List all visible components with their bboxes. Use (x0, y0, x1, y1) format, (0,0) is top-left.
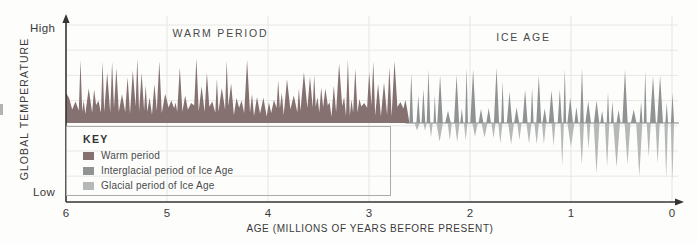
y-axis-high-label: High (30, 22, 55, 34)
x-tick-label: 1 (561, 207, 581, 219)
key-item: Glacial period of Ice Age (83, 178, 390, 193)
key-item-label: Interglacial period of Ice Age (101, 165, 233, 176)
warm-period-annotation: WARM PERIOD (146, 27, 296, 39)
x-tick-label: 4 (258, 207, 278, 219)
key-swatch-icon (83, 152, 94, 160)
key-swatch-icon (83, 182, 94, 190)
y-axis-arrow-icon (62, 14, 69, 23)
x-tick-label: 0 (662, 207, 682, 219)
x-tick-label: 2 (460, 207, 480, 219)
y-axis-title: GLOBAL TEMPERATURE (18, 34, 30, 184)
x-tick-label: 6 (56, 207, 76, 219)
temperature-history-chart: High Low GLOBAL TEMPERATURE WARM PERIOD … (0, 0, 698, 243)
key-box: KEY Warm periodInterglacial period of Ic… (66, 126, 391, 196)
key-swatch-icon (83, 167, 94, 175)
key-item-label: Warm period (101, 150, 160, 161)
key-item: Interglacial period of Ice Age (83, 163, 390, 178)
x-tick-label: 3 (359, 207, 379, 219)
x-tick-label: 5 (157, 207, 177, 219)
key-title: KEY (83, 133, 390, 145)
ice-age-annotation: ICE AGE (449, 31, 599, 43)
interglacial-spikes-area (409, 68, 674, 123)
x-axis-title: AGE (MILLIONS OF YEARS BEFORE PRESENT) (245, 223, 495, 234)
warm-period-area (66, 58, 409, 123)
key-items: Warm periodInterglacial period of Ice Ag… (83, 148, 390, 193)
page-edge-artifact (0, 104, 3, 115)
key-item-label: Glacial period of Ice Age (101, 180, 214, 191)
key-item: Warm period (83, 148, 390, 163)
x-axis-arrow-icon (675, 198, 684, 205)
y-axis-low-label: Low (33, 186, 55, 198)
